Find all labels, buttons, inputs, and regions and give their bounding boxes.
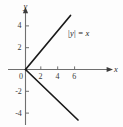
x-tick-label-6: 6 <box>72 73 76 81</box>
equals-sign: = <box>78 28 83 38</box>
abs-bar-close: | <box>74 28 76 38</box>
y-tick-label-minus-2: -2 <box>15 88 22 96</box>
y-tick-label-4: 4 <box>18 22 22 30</box>
math-graph-figure: 0 2 4 6 4 2 -2 -4 x y |y| = x <box>0 0 123 127</box>
x-axis-label: x <box>114 65 118 74</box>
y-tick-label-2: 2 <box>18 44 22 52</box>
curve-lower-branch <box>26 70 79 121</box>
curve-equation-label: |y| = x <box>68 29 89 38</box>
variable-x: x <box>85 28 89 38</box>
x-tick-label-0: 0 <box>19 73 23 81</box>
x-tick-label-4: 4 <box>55 73 59 81</box>
y-tick-label-minus-4: -4 <box>15 110 22 118</box>
x-axis-arrowhead <box>107 67 113 72</box>
y-axis-label: y <box>24 2 28 11</box>
coordinate-plane <box>0 0 123 127</box>
curve-upper-branch <box>26 16 71 70</box>
x-tick-label-2: 2 <box>39 73 43 81</box>
